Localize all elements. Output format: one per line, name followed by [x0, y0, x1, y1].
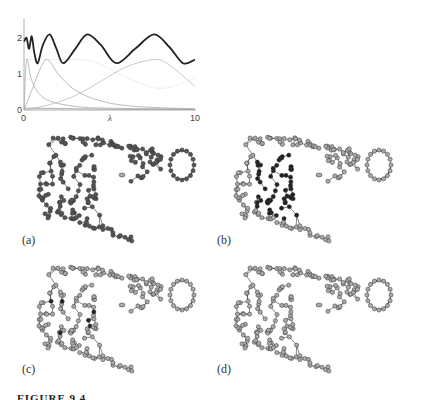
graph-node	[63, 216, 67, 220]
graph-node	[175, 177, 179, 181]
graph-node	[100, 268, 104, 272]
graph-node	[51, 136, 55, 140]
graph-node	[326, 235, 330, 239]
graph-node	[282, 136, 286, 140]
graph-node	[91, 356, 95, 360]
graph-node	[351, 290, 355, 294]
graph-node	[287, 283, 291, 287]
graph-node	[45, 182, 49, 186]
graph-node	[275, 220, 279, 224]
graph-node	[353, 283, 357, 287]
graph-node	[255, 201, 259, 205]
graph-node	[366, 157, 370, 161]
graph-node	[275, 183, 279, 187]
graph-node	[236, 301, 240, 305]
graph-node	[342, 170, 346, 174]
graph-node	[338, 291, 342, 295]
graph-node	[49, 336, 53, 340]
graph-node	[92, 295, 96, 299]
graph-node	[171, 282, 175, 286]
graph-node	[192, 293, 196, 297]
graph-node	[74, 296, 78, 300]
graph-node	[282, 266, 286, 270]
network-graph-d	[212, 250, 424, 380]
graph-node	[91, 138, 95, 142]
graph-node	[56, 266, 60, 270]
graph-node	[351, 160, 355, 164]
graph-node	[388, 169, 392, 173]
graph-node	[49, 206, 53, 210]
graph-node	[130, 239, 134, 243]
graph-node	[236, 317, 240, 321]
graph-node	[330, 290, 334, 294]
graph-node	[84, 350, 88, 354]
graph-node	[337, 147, 341, 151]
graph-node	[240, 212, 244, 216]
graph-node	[63, 141, 67, 145]
graph-node	[366, 169, 370, 173]
graph-node	[141, 174, 145, 178]
graph-node	[347, 147, 351, 151]
graph-node	[260, 216, 264, 220]
graph-node	[78, 183, 82, 187]
graph-node	[188, 304, 192, 308]
graph-node	[338, 174, 342, 178]
graph-node	[317, 146, 321, 150]
graph-node	[372, 177, 376, 181]
graph-node	[59, 195, 63, 199]
graph-node	[156, 283, 160, 287]
graph-node	[244, 291, 248, 295]
graph-node	[247, 182, 251, 186]
graph-node	[47, 143, 51, 147]
graph-node	[366, 299, 370, 303]
graph-node	[268, 266, 272, 270]
graph-node	[74, 216, 78, 220]
graph-node	[82, 336, 86, 340]
graph-node	[289, 180, 293, 184]
graph-node	[141, 291, 145, 295]
graph-node	[257, 341, 261, 345]
graph-node	[258, 267, 262, 271]
graph-node	[91, 305, 95, 309]
graph-node	[191, 169, 195, 173]
graph-node	[171, 304, 175, 308]
graph-node	[273, 319, 277, 323]
graph-node	[248, 136, 252, 140]
graph-node	[44, 203, 48, 207]
graph-node	[289, 317, 293, 321]
graph-node	[78, 220, 82, 224]
graph-node	[111, 231, 115, 235]
graph-node	[72, 304, 76, 308]
graph-node	[356, 297, 360, 301]
network-graph-b	[212, 120, 424, 250]
graph-node	[385, 304, 389, 308]
graph-node	[184, 149, 188, 153]
graph-node	[145, 300, 149, 304]
graph-node	[81, 270, 85, 274]
graph-node	[180, 278, 184, 282]
graph-node	[355, 287, 359, 291]
graph-node	[246, 206, 250, 210]
graph-node	[278, 270, 282, 274]
graph-node	[271, 195, 275, 199]
graph-node	[288, 138, 292, 142]
graph-node	[74, 166, 78, 170]
graph-node	[244, 273, 248, 277]
graph-node	[78, 163, 82, 167]
graph-node	[253, 136, 257, 140]
graph-node	[74, 346, 78, 350]
graph-node	[191, 287, 195, 291]
graph-node	[315, 363, 319, 367]
graph-node	[43, 212, 47, 216]
graph-node	[136, 174, 140, 178]
graph-node	[100, 138, 104, 142]
graph-node	[247, 174, 251, 178]
graph-node	[388, 299, 392, 303]
graph-node	[154, 160, 158, 164]
graph-node	[129, 179, 133, 183]
graph-node	[175, 279, 179, 283]
graph-node	[282, 327, 286, 331]
graph-node	[86, 188, 90, 192]
graph-node	[180, 308, 184, 312]
graph-node	[50, 182, 54, 186]
